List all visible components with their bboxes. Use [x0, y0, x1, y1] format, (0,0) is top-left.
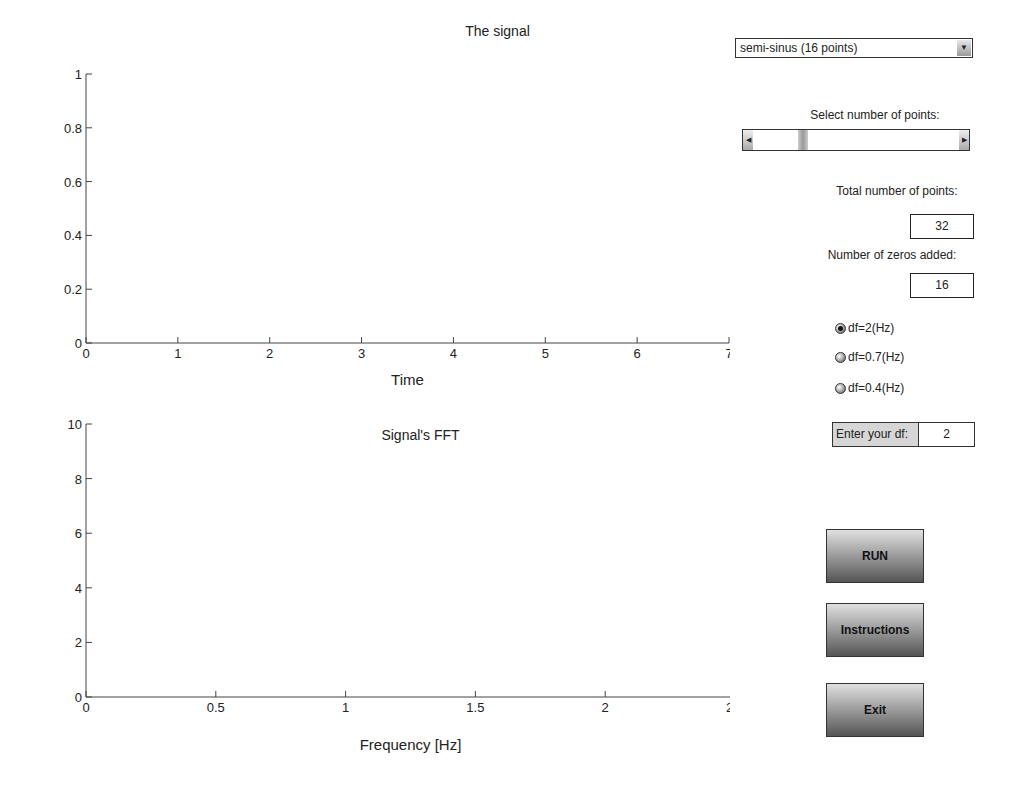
df-input-label: Enter your df: — [833, 423, 919, 446]
radio-df-0-7[interactable]: df=0.7(Hz) — [835, 350, 904, 364]
svg-text:2.5: 2.5 — [726, 700, 730, 715]
select-points-label: Select number of points: — [780, 108, 970, 122]
run-button[interactable]: RUN — [826, 529, 924, 583]
svg-text:0.6: 0.6 — [64, 175, 82, 190]
svg-text:5: 5 — [542, 346, 549, 361]
signal-type-value: semi-sinus (16 points) — [740, 41, 857, 55]
svg-text:0: 0 — [75, 336, 82, 351]
instructions-button[interactable]: Instructions — [826, 603, 924, 657]
x-axis-label: Frequency [Hz] — [360, 736, 462, 753]
svg-text:4: 4 — [450, 346, 457, 361]
radio-selected-icon[interactable] — [835, 323, 846, 334]
svg-text:6: 6 — [75, 526, 82, 541]
radio-df-0-4[interactable]: df=0.4(Hz) — [835, 381, 904, 395]
radio-icon[interactable] — [835, 383, 846, 394]
svg-text:2: 2 — [75, 635, 82, 650]
zeros-added-label: Number of zeros added: — [812, 248, 972, 262]
svg-text:0.8: 0.8 — [64, 121, 82, 136]
svg-text:10: 10 — [68, 417, 82, 432]
chart-title: Signal's FFT — [381, 427, 460, 443]
plots-canvas: 0123456700.20.40.60.81The signalTime00.5… — [0, 0, 730, 790]
svg-text:2: 2 — [602, 700, 609, 715]
svg-text:0: 0 — [82, 346, 89, 361]
points-slider[interactable]: ◀ ▶ — [742, 129, 970, 151]
x-axis-label: Time — [391, 371, 424, 388]
svg-text:0: 0 — [82, 700, 89, 715]
chevron-down-icon[interactable]: ▼ — [957, 40, 971, 56]
df-input-field[interactable]: 2 — [919, 423, 974, 446]
svg-text:7: 7 — [725, 346, 730, 361]
radio-label: df=0.4(Hz) — [848, 381, 904, 395]
slider-thumb[interactable] — [798, 130, 808, 150]
zeros-added-field: 16 — [910, 273, 974, 298]
total-points-field: 32 — [910, 214, 974, 239]
signal-type-dropdown[interactable]: semi-sinus (16 points) ▼ — [735, 38, 973, 58]
radio-label: df=2(Hz) — [848, 321, 894, 335]
svg-text:1.5: 1.5 — [466, 700, 484, 715]
svg-text:3: 3 — [358, 346, 365, 361]
svg-text:0.4: 0.4 — [64, 228, 82, 243]
exit-button[interactable]: Exit — [826, 683, 924, 737]
svg-text:0.5: 0.5 — [207, 700, 225, 715]
radio-label: df=0.7(Hz) — [848, 350, 904, 364]
slider-left-arrow-icon[interactable]: ◀ — [743, 130, 753, 150]
slider-right-arrow-icon[interactable]: ▶ — [959, 130, 969, 150]
total-points-label: Total number of points: — [812, 184, 982, 198]
svg-text:2: 2 — [266, 346, 273, 361]
svg-text:8: 8 — [75, 472, 82, 487]
radio-icon[interactable] — [835, 352, 846, 363]
svg-text:1: 1 — [75, 67, 82, 82]
svg-text:0: 0 — [75, 690, 82, 705]
svg-text:6: 6 — [634, 346, 641, 361]
df-input-group: Enter your df: 2 — [832, 422, 975, 447]
svg-text:4: 4 — [75, 581, 82, 596]
chart-title: The signal — [465, 23, 530, 39]
svg-text:1: 1 — [174, 346, 181, 361]
radio-df-2[interactable]: df=2(Hz) — [835, 321, 894, 335]
svg-text:0.2: 0.2 — [64, 282, 82, 297]
svg-text:1: 1 — [342, 700, 349, 715]
